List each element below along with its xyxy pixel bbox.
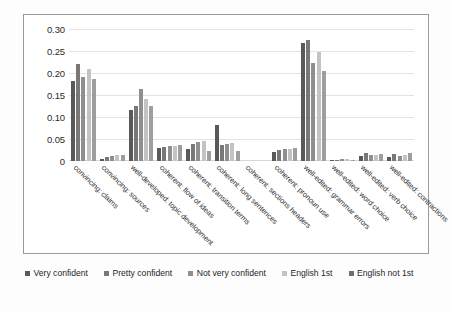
bar bbox=[359, 156, 363, 161]
bar bbox=[121, 155, 125, 161]
bar-group bbox=[69, 29, 98, 161]
legend-item[interactable]: Not very confident bbox=[188, 268, 266, 278]
bar-group bbox=[98, 29, 127, 161]
bar bbox=[403, 155, 407, 161]
bar bbox=[364, 153, 368, 161]
bar bbox=[398, 156, 402, 161]
bar-group bbox=[213, 29, 242, 161]
bar-group bbox=[127, 29, 156, 161]
x-axis-category-labels: convincing: claimsconvincing: sourceswel… bbox=[69, 163, 414, 263]
bar bbox=[335, 160, 339, 161]
legend-swatch-icon bbox=[104, 271, 109, 276]
legend-swatch-icon bbox=[282, 271, 287, 276]
bar bbox=[178, 145, 182, 161]
y-axis-tick-label: 0.30 bbox=[25, 24, 65, 35]
bar bbox=[168, 146, 172, 161]
bar bbox=[392, 154, 396, 161]
bar bbox=[340, 159, 344, 161]
bar bbox=[157, 148, 161, 161]
bar bbox=[230, 143, 234, 161]
bar bbox=[236, 151, 240, 161]
bar bbox=[207, 151, 211, 161]
x-axis-category-label: convincing: sources bbox=[100, 163, 152, 214]
x-axis-category-label: coherent: flow of ideas bbox=[158, 163, 217, 220]
bar bbox=[322, 71, 326, 161]
bar bbox=[202, 141, 206, 161]
legend-label: English not 1st bbox=[357, 268, 413, 278]
bar-group bbox=[242, 29, 271, 161]
bar bbox=[110, 156, 114, 161]
bar-group bbox=[385, 29, 414, 161]
chart-legend: Very confidentPretty confidentNot very c… bbox=[25, 268, 429, 278]
bar bbox=[149, 106, 153, 161]
bar bbox=[81, 77, 85, 161]
bar-group bbox=[184, 29, 213, 161]
bar bbox=[387, 157, 391, 161]
bar bbox=[369, 155, 373, 161]
bar bbox=[317, 52, 321, 161]
legend-label: Not very confident bbox=[197, 268, 266, 278]
legend-item[interactable]: English 1st bbox=[282, 268, 333, 278]
y-axis-tick-label: 0.25 bbox=[25, 46, 65, 57]
bar bbox=[277, 150, 281, 161]
bar bbox=[191, 144, 195, 161]
bar bbox=[139, 89, 143, 161]
bar bbox=[71, 81, 75, 161]
bar bbox=[288, 149, 292, 161]
bar bbox=[115, 155, 119, 161]
bar bbox=[301, 43, 305, 161]
bar bbox=[87, 69, 91, 161]
legend-label: Pretty confident bbox=[112, 268, 172, 278]
bar-groups bbox=[69, 29, 414, 161]
bar-group bbox=[299, 29, 328, 161]
x-axis-category-label: coherent: pronoun use bbox=[273, 163, 332, 220]
bar bbox=[330, 160, 334, 161]
bar bbox=[186, 149, 190, 161]
y-axis-tick-label: 0.15 bbox=[25, 90, 65, 101]
y-axis-tick-label: 0.10 bbox=[25, 112, 65, 123]
bar bbox=[92, 79, 96, 161]
legend-label: Very confident bbox=[34, 268, 88, 278]
plot-area: 0.300.250.200.150.100.050 bbox=[69, 29, 414, 161]
y-axis-tick-label: 0 bbox=[25, 156, 65, 167]
legend-item[interactable]: Pretty confident bbox=[104, 268, 172, 278]
bar bbox=[351, 160, 355, 161]
bar bbox=[345, 159, 349, 161]
chart-frame: 0.300.250.200.150.100.050 convincing: cl… bbox=[23, 14, 429, 254]
bar bbox=[134, 106, 138, 161]
legend-item[interactable]: Very confident bbox=[25, 268, 88, 278]
bar-group bbox=[328, 29, 357, 161]
legend-item[interactable]: English not 1st bbox=[349, 268, 414, 278]
bar-group bbox=[357, 29, 386, 161]
bar bbox=[196, 142, 200, 161]
bar-group bbox=[270, 29, 299, 161]
bar bbox=[129, 110, 133, 161]
bar bbox=[293, 148, 297, 161]
bar bbox=[105, 157, 109, 161]
bar bbox=[311, 63, 315, 161]
y-axis-tick-label: 0.20 bbox=[25, 68, 65, 79]
bar bbox=[100, 159, 104, 161]
bar bbox=[220, 145, 224, 161]
legend-swatch-icon bbox=[25, 271, 30, 276]
legend-label: English 1st bbox=[290, 268, 332, 278]
legend-swatch-icon bbox=[188, 271, 193, 276]
bar bbox=[379, 154, 383, 161]
bar bbox=[173, 146, 177, 161]
bar bbox=[408, 153, 412, 161]
bar bbox=[374, 155, 378, 161]
bar bbox=[144, 99, 148, 161]
bar bbox=[272, 152, 276, 161]
legend-swatch-icon bbox=[349, 271, 354, 276]
chart-page: 0.300.250.200.150.100.050 convincing: cl… bbox=[0, 0, 452, 312]
bar bbox=[283, 149, 287, 161]
bar bbox=[225, 144, 229, 161]
bar bbox=[215, 125, 219, 161]
bar bbox=[76, 64, 80, 161]
y-axis-tick-label: 0.05 bbox=[25, 134, 65, 145]
bar-group bbox=[155, 29, 184, 161]
bar bbox=[306, 40, 310, 161]
bar bbox=[162, 147, 166, 161]
